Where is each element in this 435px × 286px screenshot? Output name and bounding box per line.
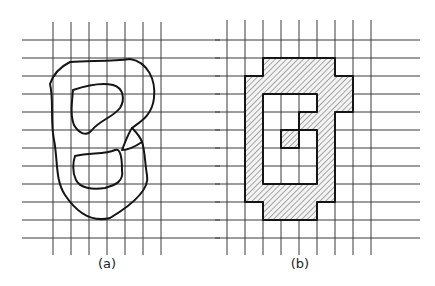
shaded-cell xyxy=(317,112,335,130)
shaded-cell xyxy=(281,184,299,202)
shaded-cell xyxy=(317,130,335,148)
shaded-cell xyxy=(299,202,317,220)
shaded-cell xyxy=(317,184,335,202)
panel-b: (b) xyxy=(215,20,420,271)
grid-a xyxy=(22,22,220,255)
shaded-cell xyxy=(317,76,335,94)
shaded-cell xyxy=(335,94,353,112)
shaded-cell xyxy=(245,130,263,148)
shaded-cell xyxy=(245,184,263,202)
shaded-cell xyxy=(317,58,335,76)
shaded-cell xyxy=(245,94,263,112)
shaded-cell xyxy=(245,112,263,130)
shaded-cell xyxy=(281,58,299,76)
shaded-cell xyxy=(245,76,263,94)
shaded-cell xyxy=(245,148,263,166)
shaded-cell xyxy=(317,166,335,184)
shaded-cell xyxy=(281,202,299,220)
shaded-cell xyxy=(299,58,317,76)
shaded-cell xyxy=(281,76,299,94)
shaded-cell xyxy=(263,202,281,220)
shaded-cell xyxy=(263,58,281,76)
panel-b-label: (b) xyxy=(291,256,309,271)
shaded-cell xyxy=(263,184,281,202)
shaded-cell xyxy=(317,94,335,112)
shaded-cell xyxy=(335,76,353,94)
panel-a: (a) xyxy=(22,22,220,271)
panel-a-label: (a) xyxy=(98,256,116,271)
shaded-cell xyxy=(281,130,299,148)
shaded-cell xyxy=(245,166,263,184)
shaded-cell xyxy=(299,76,317,94)
grid-digitization-figure: (a) (b) xyxy=(0,0,435,286)
shaded-cell xyxy=(317,148,335,166)
shaded-cell xyxy=(299,184,317,202)
shaded-cell xyxy=(263,76,281,94)
shaded-cell xyxy=(299,112,317,130)
